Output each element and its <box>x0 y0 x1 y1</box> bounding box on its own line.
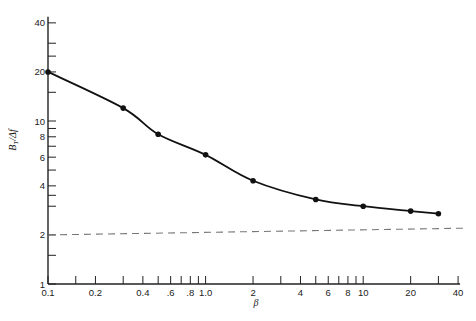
axes <box>48 17 460 284</box>
svg-text:BT/Δf: BT/Δf <box>7 128 20 151</box>
y-tick-label: 40 <box>34 17 45 28</box>
x-tick-label: 10 <box>358 287 369 298</box>
y-tick-label: 1 <box>40 279 45 290</box>
data-point <box>45 69 51 75</box>
x-tick-label: 1.0 <box>199 287 212 298</box>
x-tick-label: 0.2 <box>89 287 102 298</box>
y-tick-label: 4 <box>40 180 45 191</box>
x-tick-label: 20 <box>405 287 416 298</box>
measured-curve <box>48 72 438 214</box>
y-axis-title: BT/Δf <box>7 128 20 151</box>
axis-ticks <box>48 23 458 284</box>
reference-dashed-line <box>48 228 464 235</box>
x-tick-label: 0.4 <box>136 287 149 298</box>
x-tick-label: 6 <box>326 287 331 298</box>
tick-labels: 0.10.20.4.6.81.0246810204012468102040 <box>34 17 463 298</box>
data-point <box>120 105 126 111</box>
y-tick-label: 6 <box>40 152 45 163</box>
y-tick-label: 20 <box>34 66 45 77</box>
data-point <box>360 203 366 209</box>
x-tick-label: 4 <box>298 287 303 298</box>
x-tick-label: .8 <box>186 287 194 298</box>
data-series <box>45 69 464 235</box>
x-tick-label: .6 <box>167 287 175 298</box>
y-tick-label: 10 <box>34 116 45 127</box>
data-point <box>313 197 319 203</box>
data-point <box>436 211 442 217</box>
data-point <box>408 208 414 214</box>
y-tick-label: 8 <box>40 131 45 142</box>
x-axis-title: β <box>253 297 259 308</box>
data-point <box>250 178 256 184</box>
data-point <box>203 152 209 158</box>
y-tick-label: 2 <box>40 229 45 240</box>
x-tick-label: 8 <box>345 287 350 298</box>
data-point <box>155 131 161 137</box>
x-tick-label: 40 <box>453 287 464 298</box>
chart: 0.10.20.4.6.81.0246810204012468102040 β … <box>0 0 476 321</box>
y-title-rest: /Δf <box>7 128 18 142</box>
